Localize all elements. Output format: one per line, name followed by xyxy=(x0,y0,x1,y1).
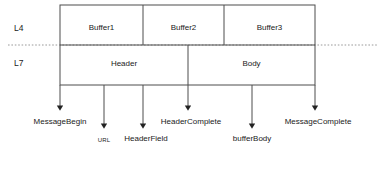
event-label-header-complete: HeaderComplete xyxy=(161,118,221,126)
diagram-canvas: L4 L7 Buffer1 Buffer2 Buffer3 Header Bod… xyxy=(0,0,384,171)
layer-label-l4: L4 xyxy=(14,24,23,33)
segment-label-buffer1: Buffer1 xyxy=(89,24,115,32)
segment-label-body: Body xyxy=(242,60,260,68)
segment-label-buffer2: Buffer2 xyxy=(171,24,197,32)
layer-label-l7: L7 xyxy=(14,59,23,68)
event-label-message-begin: MessageBegin xyxy=(34,118,87,126)
event-label-message-complete: MessageComplete xyxy=(285,118,352,126)
event-label-buffer-body: bufferBody xyxy=(233,135,272,143)
segment-label-buffer3: Buffer3 xyxy=(257,24,283,32)
segment-label-header: Header xyxy=(111,60,137,68)
event-label-url: URL xyxy=(98,137,111,143)
event-label-header-field: HeaderField xyxy=(124,135,168,143)
